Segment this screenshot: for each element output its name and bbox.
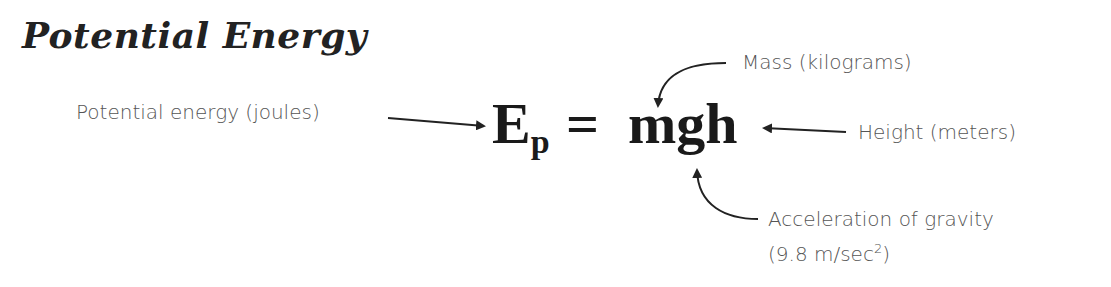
arrow-acceleration-icon bbox=[697, 170, 758, 219]
arrow-potential-energy-icon bbox=[388, 118, 484, 126]
arrow-height-icon bbox=[764, 128, 846, 132]
arrow-mass-icon bbox=[658, 63, 726, 106]
arrows-layer bbox=[0, 0, 1111, 287]
